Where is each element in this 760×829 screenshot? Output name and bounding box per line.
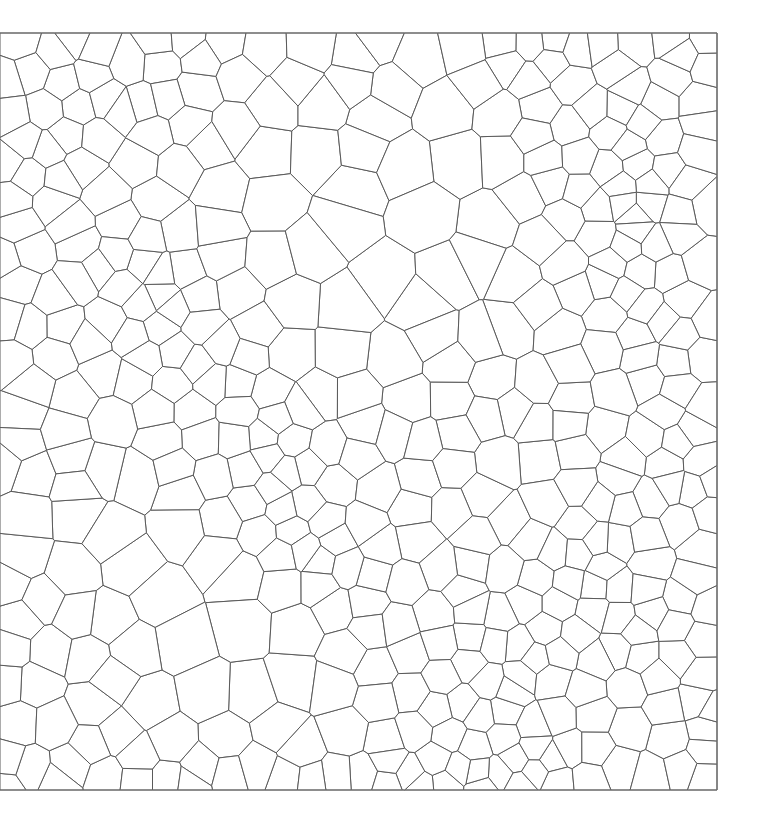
voronoi-cell [0,491,53,538]
voronoi-cell [0,665,22,706]
voronoi-cell [322,752,352,790]
voronoi-cell [216,396,260,426]
voronoi-canvas [0,0,760,829]
voronoi-cell [120,768,152,790]
voronoi-cell [0,701,37,746]
voronoi-diagram: voronoi-tessellation [0,0,760,829]
voronoi-cells [0,33,717,790]
